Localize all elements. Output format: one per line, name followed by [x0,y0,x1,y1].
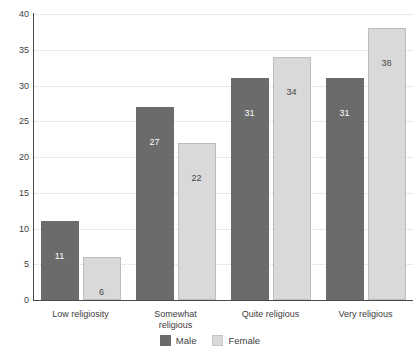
y-tick-label: 20 [3,153,29,162]
bar-value-label: 38 [369,59,405,68]
bar-value-label: 22 [179,174,215,183]
category-label-0: Low religiosity [33,309,128,320]
bar-value-label: 34 [274,88,310,97]
y-tick-label: 10 [3,225,29,234]
y-tick-label: 15 [3,189,29,198]
y-axis-line [33,13,34,301]
category-label-2: Quite religious [223,309,318,320]
y-tick-label: 25 [3,117,29,126]
bar-female-1: 22 [178,143,216,300]
bar-female-2: 34 [273,57,311,300]
x-axis-line [33,300,413,301]
y-tick-label: 0 [3,296,29,305]
plot-area: 116272231343138 [33,14,413,300]
bar-male-1: 27 [136,107,174,300]
bar-value-label: 27 [136,138,174,147]
y-tick-label: 40 [3,10,29,19]
bar-value-label: 6 [84,288,120,297]
category-label-1: Somewhatreligious [128,309,223,331]
bar-value-label: 31 [231,109,269,118]
gridline [33,50,413,51]
category-label-3: Very religious [318,309,413,320]
bar-value-label: 31 [326,109,364,118]
y-tick-label: 30 [3,82,29,91]
chart-legend: MaleFemale [0,335,420,346]
bar-female-0: 6 [83,257,121,300]
legend-label: Female [228,335,260,346]
category-label-line: religious [128,320,223,331]
y-tick-label: 35 [3,46,29,55]
bar-female-3: 38 [368,28,406,300]
category-label-line: Quite religious [223,309,318,320]
category-label-line: Somewhat [128,309,223,320]
bar-value-label: 11 [41,252,79,261]
y-axis-tick-labels: 0510152025303540 [0,0,29,359]
legend-swatch-icon [212,335,223,346]
category-label-line: Very religious [318,309,413,320]
legend-item-male[interactable]: Male [160,335,197,346]
legend-item-female[interactable]: Female [212,335,260,346]
legend-label: Male [176,335,197,346]
gridline [33,14,413,15]
legend-swatch-icon [160,335,171,346]
category-label-line: Low religiosity [33,309,128,320]
bar-male-0: 11 [41,221,79,300]
grouped-bar-chart: 0510152025303540 116272231343138 Low rel… [0,0,420,359]
bar-male-3: 31 [326,78,364,300]
y-tick-label: 5 [3,260,29,269]
bar-male-2: 31 [231,78,269,300]
